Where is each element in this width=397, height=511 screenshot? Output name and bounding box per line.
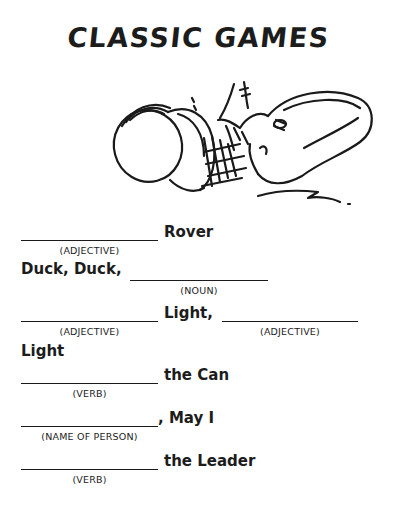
blank-hint: (ADJECTIVE) (21, 327, 158, 337)
blank-hint: (ADJECTIVE) (21, 246, 158, 256)
page-title: CLASSIC GAMES (0, 22, 397, 53)
answer-blank-noun[interactable] (130, 280, 268, 281)
answer-blank-adjective-1[interactable] (21, 240, 158, 241)
answer-blank-verb-1[interactable] (21, 383, 158, 384)
game-text-may-i: , May I (158, 411, 214, 426)
blank-hint: (NAME OF PERSON) (21, 432, 158, 442)
blank-hint: (VERB) (21, 389, 158, 399)
game-text-duck-duck: Duck, Duck, (21, 262, 122, 277)
answer-blank-adjective-2[interactable] (21, 321, 158, 322)
answer-blank-verb-2[interactable] (21, 469, 158, 470)
game-text-rover: Rover (164, 225, 213, 240)
answer-blank-adjective-3[interactable] (222, 321, 358, 322)
game-text-the-can: the Can (164, 368, 229, 383)
game-text-light: Light, (164, 306, 213, 321)
blank-hint: (NOUN) (130, 286, 268, 296)
blank-hint: (VERB) (21, 475, 158, 485)
blank-hint: (ADJECTIVE) (222, 327, 358, 337)
game-text-light-continuation: Light (21, 344, 64, 359)
game-text-the-leader: the Leader (164, 454, 255, 469)
kick-the-can-illustration (108, 78, 378, 208)
answer-blank-name-of-person[interactable] (21, 426, 158, 427)
